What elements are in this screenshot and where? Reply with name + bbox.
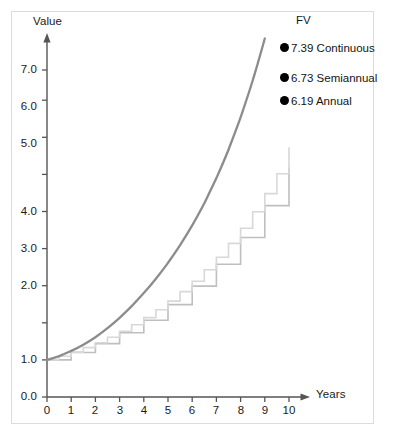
x-tick-label-3: 3 — [110, 404, 130, 416]
legend-label-annual: 6.19 Annual — [291, 95, 352, 107]
series-semiannual-step — [47, 147, 289, 360]
y-tick-label-3: 3.0 — [11, 242, 37, 254]
marker-dot-semiannual — [280, 73, 289, 82]
legend-entry-semiannual: 6.73 Semiannual — [280, 71, 377, 85]
y-axis — [43, 33, 50, 397]
x-tick-label-1: 1 — [61, 404, 81, 416]
x-tick-label-6: 6 — [182, 404, 202, 416]
x-tick-label-2: 2 — [85, 404, 105, 416]
y-axis-title: Value — [33, 15, 62, 27]
y-tick-label-4: 4.0 — [11, 205, 37, 217]
legend-label-semiannual: 6.73 Semiannual — [291, 72, 377, 84]
x-tick-label-4: 4 — [134, 404, 154, 416]
x-tick-label-7: 7 — [206, 404, 226, 416]
legend-entry-annual: 6.19 Annual — [280, 94, 352, 108]
legend-label-continuous: 7.39 Continuous — [291, 42, 375, 54]
y-tick-label-2: 2.0 — [11, 279, 37, 291]
legend-header: FV — [296, 14, 311, 26]
chart-plot-area — [0, 0, 401, 442]
y-tick-label-0: 0.0 — [11, 390, 37, 402]
x-axis-title: Years — [316, 388, 346, 400]
y-tick-label-7: 7.0 — [11, 63, 37, 75]
y-tick-label-5: 5.0 — [11, 137, 37, 149]
chart-figure: Value Years 7.0 6.0 5.0 4.0 3.0 2.0 1.0 … — [0, 0, 401, 442]
x-tick-marks — [47, 397, 289, 402]
x-tick-label-8: 8 — [231, 404, 251, 416]
y-tick-marks — [42, 70, 47, 397]
x-axis — [47, 393, 310, 400]
y-tick-label-1: 1.0 — [11, 353, 37, 365]
y-tick-label-6: 6.0 — [11, 100, 37, 112]
x-tick-label-0: 0 — [37, 404, 57, 416]
marker-dot-annual — [280, 96, 289, 105]
x-tick-label-9: 9 — [255, 404, 275, 416]
legend-entry-continuous: 7.39 Continuous — [280, 41, 375, 55]
marker-dot-continuous — [280, 43, 289, 52]
x-tick-label-5: 5 — [158, 404, 178, 416]
x-tick-label-10: 10 — [279, 404, 299, 416]
